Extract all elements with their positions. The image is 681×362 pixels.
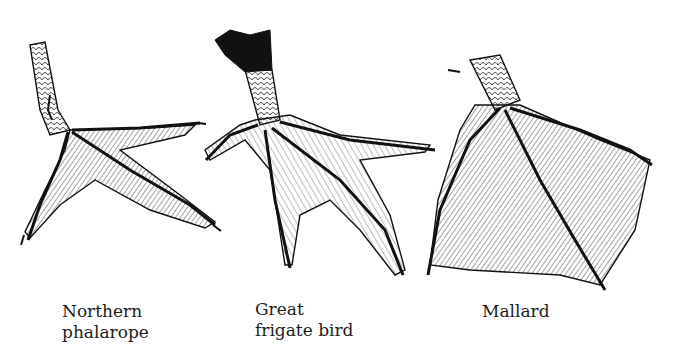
bird-feet-figure: Northern phalarope Great frigate bird Ma… (0, 0, 681, 362)
frigate-foot (205, 30, 435, 275)
label-line: phalarope (62, 322, 149, 343)
phalarope-foot (21, 42, 221, 245)
label-great-frigate-bird: Great frigate bird (255, 299, 354, 341)
label-mallard: Mallard (482, 301, 550, 322)
label-line: Great (255, 299, 354, 320)
label-northern-phalarope: Northern phalarope (62, 301, 149, 343)
label-line: Mallard (482, 301, 550, 322)
mallard-foot (428, 55, 652, 290)
label-line: Northern (62, 301, 149, 322)
label-line: frigate bird (255, 320, 354, 341)
